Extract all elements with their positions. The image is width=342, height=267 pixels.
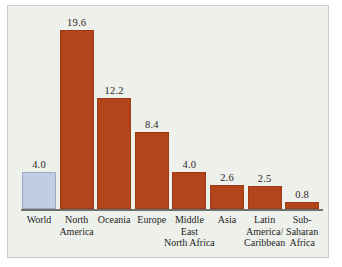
bar[interactable]	[135, 132, 169, 209]
bar[interactable]	[210, 185, 244, 209]
bar-group: 4.0	[22, 152, 56, 209]
bar-group: 0.8	[285, 182, 319, 209]
bar-value-label: 19.6	[67, 17, 86, 28]
bar-group: 4.0	[172, 152, 206, 209]
bar-value-label: 2.5	[258, 173, 272, 184]
bar-value-label: 12.2	[105, 85, 124, 96]
bar[interactable]	[172, 172, 206, 209]
x-axis-baseline	[21, 209, 323, 211]
bar-chart-figure: 4.019.612.28.44.02.62.50.8 WorldNorthAme…	[0, 0, 342, 267]
bar[interactable]	[97, 98, 131, 209]
bar-value-label: 0.8	[295, 189, 309, 200]
bar-value-label: 4.0	[32, 159, 46, 170]
bar-group: 19.6	[60, 10, 94, 209]
bar-group: 8.4	[135, 112, 169, 209]
bar[interactable]	[60, 30, 94, 209]
bar[interactable]	[248, 186, 282, 209]
bar-group: 2.6	[210, 165, 244, 209]
bar-group: 12.2	[97, 78, 131, 209]
bar-value-label: 4.0	[183, 159, 197, 170]
bar[interactable]	[285, 202, 319, 209]
bar-value-label: 2.6	[220, 172, 234, 183]
bar-value-label: 8.4	[145, 119, 159, 130]
x-axis-tick-label: Sub-SaharanAfrica	[276, 214, 328, 249]
bar[interactable]	[22, 172, 56, 209]
plot-area: 4.019.612.28.44.02.62.50.8 WorldNorthAme…	[7, 5, 329, 258]
bar-group: 2.5	[248, 166, 282, 209]
